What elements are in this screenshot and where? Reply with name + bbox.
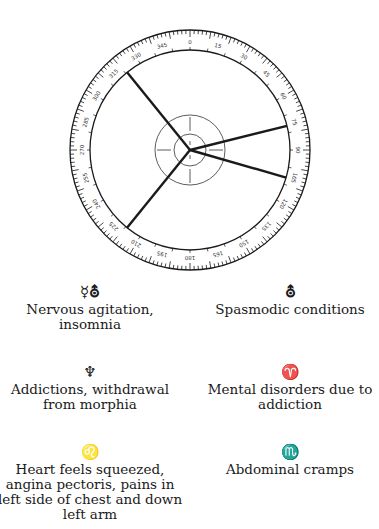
svg-text:270: 270	[79, 144, 85, 155]
svg-text:240: 240	[91, 198, 102, 211]
entry-text: Heart feels squeezed, angina pectoris, p…	[0, 461, 182, 522]
entry-neptune: ♆ Addictions, withdrawal from morphia	[0, 363, 185, 412]
svg-text:75: 75	[291, 118, 299, 127]
entry-text: Nervous agitation, insomnia	[26, 301, 153, 332]
svg-text:15: 15	[214, 42, 223, 50]
entry-uranus: ⛢ Spasmodic conditions	[195, 283, 379, 317]
neptune-icon: ♆	[0, 363, 185, 381]
entry-leo: ♌ Heart feels squeezed, angina pectoris,…	[0, 443, 185, 522]
entry-text: Addictions, withdrawal from morphia	[11, 381, 169, 412]
svg-text:60: 60	[279, 91, 288, 100]
entry-scorpio: ♏ Abdominal cramps	[195, 443, 379, 477]
entry-text: Abdominal cramps	[226, 461, 354, 477]
scorpio-icon: ♏	[195, 443, 379, 461]
svg-text:120: 120	[278, 198, 289, 211]
pointer-line	[190, 126, 287, 150]
svg-text:165: 165	[212, 250, 224, 259]
svg-text:105: 105	[290, 172, 299, 184]
svg-text:180: 180	[184, 255, 195, 261]
entry-aries: ♈ Mental disorders due to addiction	[195, 363, 379, 412]
svg-text:210: 210	[130, 238, 143, 249]
entry-text: Spasmodic conditions	[215, 301, 364, 317]
aries-icon: ♈	[195, 363, 379, 381]
uranus-icon: ⛢	[195, 283, 379, 301]
svg-text:225: 225	[107, 220, 119, 232]
pointer-line	[127, 72, 190, 150]
svg-text:285: 285	[81, 116, 90, 128]
svg-text:255: 255	[81, 172, 90, 184]
pointer-line	[190, 150, 286, 178]
svg-text:150: 150	[238, 238, 251, 249]
svg-text:195: 195	[156, 250, 168, 259]
svg-text:135: 135	[260, 221, 272, 233]
svg-text:90: 90	[295, 147, 301, 154]
svg-text:315: 315	[108, 67, 120, 79]
svg-text:30: 30	[239, 52, 248, 61]
pointer-lines	[127, 72, 287, 227]
svg-text:300: 300	[91, 90, 102, 103]
svg-text:345: 345	[156, 41, 168, 50]
entry-mercury-uranus: ☿⛢ Nervous agitation, insomnia	[0, 283, 185, 332]
svg-text:0: 0	[188, 39, 192, 45]
leo-icon: ♌	[0, 443, 185, 461]
mercury-uranus-icon: ☿⛢	[0, 283, 185, 301]
pointer-line	[127, 150, 190, 228]
dial-chart: 0153045607590105120135150165180195210225…	[0, 0, 379, 280]
svg-text:45: 45	[262, 69, 272, 79]
entry-text: Mental disorders due to addiction	[208, 381, 373, 412]
svg-text:330: 330	[130, 51, 143, 62]
